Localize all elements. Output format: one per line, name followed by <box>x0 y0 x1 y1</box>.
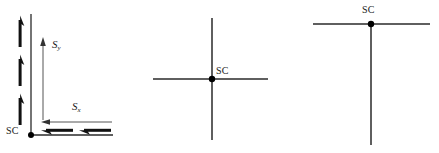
bold-vertical-arrow-1 <box>19 16 25 48</box>
label-sx-subscript: x <box>78 106 81 114</box>
label-sc-middle: SC <box>216 66 229 76</box>
panel-left-graphics <box>0 0 145 153</box>
label-sy-base: S <box>52 38 58 50</box>
label-sc-left: SC <box>6 126 19 136</box>
origin-dot-sc <box>368 21 374 27</box>
panel-right-graphics <box>290 0 439 153</box>
bold-vertical-arrow-3 <box>19 94 25 126</box>
label-sx: Sx <box>72 101 81 112</box>
sy-arrow-head <box>40 37 46 46</box>
origin-dot-sc <box>209 76 215 82</box>
panel-inverted-t-axes <box>290 0 439 153</box>
label-sx-base: S <box>72 100 78 112</box>
label-sy: Sy <box>52 39 61 50</box>
bold-vertical-arrow-2 <box>19 55 25 87</box>
bold-horizontal-arrow-2 <box>79 129 111 135</box>
origin-dot-sc <box>28 132 34 138</box>
label-sy-subscript: y <box>58 44 61 52</box>
figure-canvas: SC Sy Sx SC SC <box>0 0 439 153</box>
panel-corner-axes: SC Sy Sx <box>0 0 145 153</box>
panel-cross-axes <box>145 0 290 153</box>
label-sc-right: SC <box>362 5 375 15</box>
panel-middle-graphics <box>145 0 290 153</box>
sx-arrow-head <box>41 119 50 124</box>
bold-horizontal-arrow-1 <box>41 129 73 135</box>
